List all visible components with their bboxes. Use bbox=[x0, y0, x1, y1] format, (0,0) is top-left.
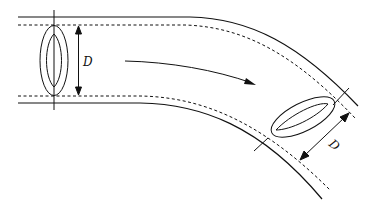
pipe-top-inner-dashed bbox=[18, 25, 355, 118]
flow-arrow bbox=[125, 61, 256, 85]
pipe-bottom-inner-dashed bbox=[18, 96, 330, 190]
left-diameter-arrow bbox=[76, 26, 82, 95]
pipe-diagram: D D bbox=[0, 0, 375, 203]
pipe-bottom-wall bbox=[18, 103, 322, 199]
left-diameter-label: D bbox=[82, 55, 93, 69]
pipe-top-wall bbox=[18, 17, 358, 106]
right-diameter-label: D bbox=[325, 136, 342, 154]
